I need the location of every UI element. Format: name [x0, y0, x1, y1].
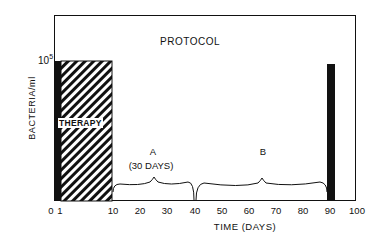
phase-a-duration: (30 DAYS) [129, 160, 174, 171]
x-tick-label: 1 [57, 205, 62, 216]
brace-b [196, 178, 327, 200]
chart-title: PROTOCOL [160, 36, 220, 47]
x-tick-label: 10 [108, 205, 119, 216]
x-axis-label: TIME (DAYS) [214, 221, 276, 232]
x-tick-label: 20 [135, 205, 146, 216]
y-tick-label: 105 [38, 55, 53, 66]
phase-b-label: B [260, 146, 266, 157]
therapy-label: THERAPY [58, 118, 103, 128]
x-tick-label: 0 [48, 205, 53, 216]
x-tick-label: 50 [217, 205, 228, 216]
bar-therapy [61, 61, 112, 201]
bar-initial-bacteria [55, 61, 61, 201]
x-tick-label: 40 [190, 205, 201, 216]
x-tick-label: 70 [271, 205, 282, 216]
x-tick-label: 80 [298, 205, 309, 216]
x-tick-label: 100 [349, 205, 365, 216]
x-tick-label: 90 [325, 205, 336, 216]
x-tick-label: 30 [162, 205, 173, 216]
brace-a [113, 177, 194, 200]
bar-day90-bacteria [327, 64, 335, 201]
y-axis-label: BACTERIA/ml [27, 76, 37, 140]
x-tick-label: 60 [244, 205, 255, 216]
phase-a-label: A [150, 146, 156, 157]
